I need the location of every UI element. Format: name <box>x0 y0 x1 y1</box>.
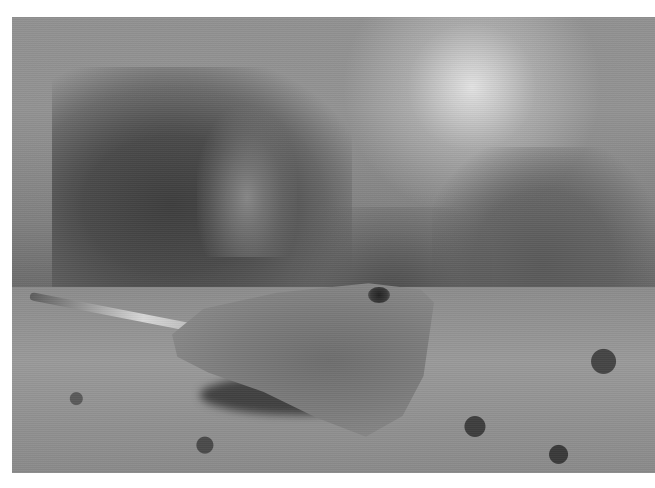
underwater-photo: Grayscale underwater photograph of a sti… <box>12 17 655 473</box>
stingray-eye <box>368 287 390 303</box>
sea-fan <box>197 107 297 257</box>
